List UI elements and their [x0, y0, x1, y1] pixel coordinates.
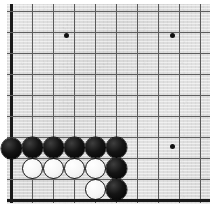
star-point-upper-right — [170, 33, 175, 38]
white-stone-b2[interactable] — [22, 158, 43, 179]
grid-line-vertical-7 — [158, 4, 159, 203]
black-stone-c1[interactable] — [43, 137, 64, 158]
grid-line-vertical-9 — [200, 4, 201, 203]
black-stone-f3[interactable] — [106, 179, 127, 200]
grid-line-horizontal-2 — [7, 53, 210, 54]
grid-line-horizontal-0 — [7, 11, 210, 12]
white-stone-d2[interactable] — [64, 158, 85, 179]
white-stone-c2[interactable] — [43, 158, 64, 179]
diagram-title: Go Board Diagram — [0, 0, 1, 1]
go-board-diagram: Go Board Diagram Lower-left corner of a … — [0, 0, 210, 210]
black-stone-b1[interactable] — [22, 137, 43, 158]
white-stone-e3[interactable] — [85, 179, 106, 200]
grid-line-horizontal-5 — [7, 116, 210, 117]
grid-line-vertical-0 — [10, 4, 13, 203]
black-stone-d1[interactable] — [64, 137, 85, 158]
grid-line-vertical-8 — [179, 4, 180, 203]
black-stone-f1[interactable] — [106, 137, 127, 158]
grid-line-horizontal-9 — [7, 199, 210, 202]
star-point-upper-left — [64, 33, 69, 38]
black-stone-e1[interactable] — [85, 137, 106, 158]
grid-line-horizontal-4 — [7, 95, 210, 96]
grid-line-vertical-6 — [137, 4, 138, 203]
grid-line-horizontal-1 — [7, 32, 210, 33]
grid-line-horizontal-8 — [7, 179, 210, 180]
grid-line-horizontal-3 — [7, 74, 210, 75]
white-stone-e2[interactable] — [85, 158, 106, 179]
black-stone-f2[interactable] — [106, 158, 127, 179]
star-point-lower-right — [170, 144, 175, 149]
diagram-description: Lower-left corner of a Go board showing … — [0, 0, 1, 1]
black-stone-a1[interactable] — [1, 138, 22, 159]
